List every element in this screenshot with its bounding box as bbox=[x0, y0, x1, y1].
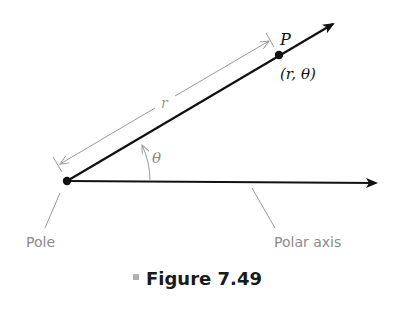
pole-point bbox=[63, 177, 71, 185]
dimension-tick-pole bbox=[53, 157, 62, 172]
radius-dimension-line-lower bbox=[60, 108, 155, 164]
point-p bbox=[275, 51, 283, 59]
angle-arc bbox=[142, 145, 150, 181]
figure-caption: Figure 7.49 bbox=[146, 268, 262, 289]
point-coordinates: (r, θ) bbox=[280, 65, 316, 83]
dimension-tick-point bbox=[266, 33, 274, 47]
point-label: P bbox=[279, 30, 291, 49]
radius-dimension-line-upper bbox=[175, 41, 269, 96]
polar-axis-leader-line bbox=[252, 188, 275, 228]
angle-label: θ bbox=[152, 149, 161, 167]
caption-bullet bbox=[133, 274, 139, 280]
pole-label: Pole bbox=[26, 234, 55, 250]
pole-leader-line bbox=[45, 193, 60, 228]
polar-axis-line bbox=[67, 181, 376, 183]
terminal-ray bbox=[67, 24, 333, 181]
radius-label: r bbox=[161, 95, 169, 111]
polar-coordinates-diagram: r θ P (r, θ) Pole Polar axis Figure 7.49 bbox=[0, 0, 398, 309]
polar-axis-label: Polar axis bbox=[274, 234, 341, 250]
